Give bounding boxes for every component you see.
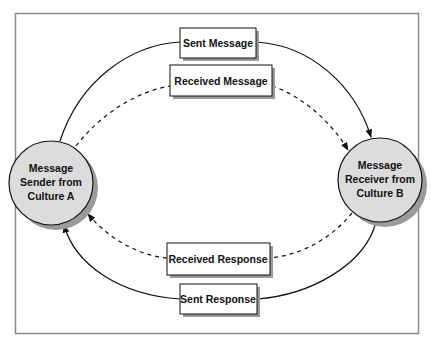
- received-message-label: Received Message: [174, 75, 268, 87]
- received-response-box: Received Response: [167, 243, 273, 278]
- sent-response-label: Sent Response: [180, 293, 256, 305]
- received-message-arc-left: [76, 86, 170, 146]
- sent-response-arc-right: [257, 222, 376, 299]
- sender-label-line-1: Message: [29, 162, 74, 174]
- received-response-arc-right: [270, 213, 352, 258]
- received-message-box: Received Message: [170, 65, 275, 99]
- received-response-label: Received Response: [168, 253, 267, 265]
- sent-message-label: Sent Message: [183, 37, 253, 49]
- receiver-label-line-2: Receiver from: [345, 173, 415, 185]
- sent-message-arc-left: [60, 42, 180, 141]
- received-response-arc-left: [88, 214, 167, 258]
- receiver-label-line-3: Culture B: [356, 187, 404, 199]
- sender-label-line-3: Culture A: [28, 190, 75, 202]
- received-message-arc-right: [272, 86, 348, 150]
- sender-node: Message Sender from Culture A: [9, 141, 98, 230]
- sent-message-box: Sent Message: [180, 28, 259, 61]
- receiver-label-line-1: Message: [358, 159, 403, 171]
- sent-response-arc-left: [64, 225, 180, 299]
- sent-response-box: Sent Response: [180, 284, 260, 317]
- communication-diagram: Message Sender from Culture A Message Re…: [0, 0, 432, 346]
- sender-label-line-2: Sender from: [20, 176, 82, 188]
